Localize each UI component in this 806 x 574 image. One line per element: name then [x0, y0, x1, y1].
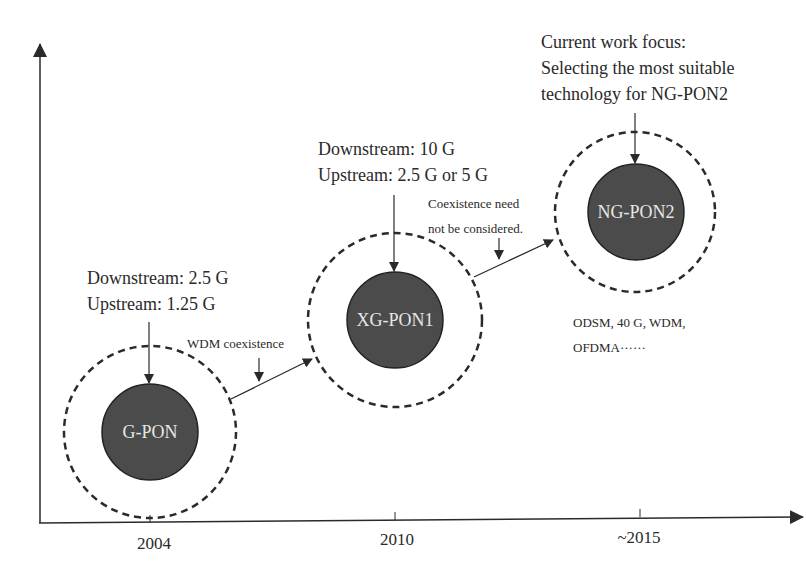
transition-label: Coexistence need: [428, 196, 520, 211]
candidate-tech: OFDMA······: [573, 340, 646, 355]
spec-line: Selecting the most suitable: [541, 58, 734, 78]
transition-xgpon1-ngpon2: Coexistence need not be considered.: [428, 196, 553, 277]
transition-label: not be considered.: [428, 221, 523, 236]
x-axis: [39, 517, 803, 523]
spec-line: Downstream: 10 G: [318, 139, 455, 159]
node-xgpon1: XG-PON1 Downstream: 10 G Upstream: 2.5 G…: [308, 139, 488, 407]
transition-arrow: [231, 359, 312, 399]
transition-arrow: [474, 240, 553, 277]
spec-line: technology for NG-PON2: [541, 84, 728, 104]
x-tick-label: ~2015: [617, 528, 660, 547]
spec-line: Current work focus:: [541, 32, 686, 52]
spec-line: Upstream: 1.25 G: [87, 294, 215, 314]
transition-label: WDM coexistence: [187, 336, 284, 351]
node-label: NG-PON2: [597, 202, 674, 222]
candidate-tech: ODSM, 40 G, WDM,: [573, 315, 685, 330]
node-gpon: G-PON Downstream: 2.5 G Upstream: 1.25 G: [64, 268, 236, 518]
x-tick-label: 2010: [380, 530, 414, 549]
transition-gpon-xgpon1: WDM coexistence: [187, 336, 312, 399]
node-ngpon2: NG-PON2 Current work focus: Selecting th…: [541, 32, 734, 355]
x-tick-label: 2004: [137, 534, 172, 553]
spec-line: Upstream: 2.5 G or 5 G: [318, 165, 488, 185]
node-label: G-PON: [122, 422, 177, 442]
pon-evolution-diagram: 2004 2010 ~2015 G-PON Downstream: 2.5 G …: [0, 0, 806, 574]
spec-line: Downstream: 2.5 G: [87, 268, 228, 288]
node-label: XG-PON1: [356, 310, 433, 330]
